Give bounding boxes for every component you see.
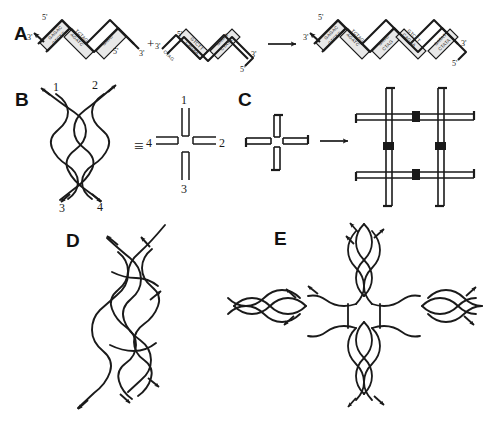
label-p-3prime-left: 3' — [303, 33, 309, 42]
junction-arm-label-3: 3 — [59, 201, 65, 215]
equivalence-symbol: ≡ — [134, 137, 144, 156]
label-r1-5prime-right: 5' — [113, 47, 119, 56]
panel-d-letter: D — [66, 230, 80, 251]
panel-a-plus-operator: + — [147, 36, 154, 51]
schematic-label-4: 4 — [146, 136, 152, 150]
panel-a-letter: A — [14, 23, 28, 44]
panel-e-letter: E — [274, 228, 287, 249]
label-p-5prime-right: 5' — [452, 59, 458, 68]
label-p-3prime-right: 3' — [461, 39, 467, 48]
label-p-5prime-left: 5' — [318, 13, 324, 22]
label-r2-5prime-left: 5' — [177, 30, 183, 39]
schematic-label-2: 2 — [219, 136, 225, 150]
junction-block-left — [383, 142, 394, 150]
junction-arm-label-1: 1 — [53, 80, 59, 94]
schematic-label-1: 1 — [181, 93, 187, 107]
label-r2-5prime-right: 5' — [240, 65, 246, 74]
dna-nanostructure-figure: A GAGAC CTCTG AGATC TCTAG GATC 3' 5' 5' … — [0, 0, 485, 427]
junction-arm-label-4: 4 — [97, 200, 103, 214]
label-r1-3prime-left: 3' — [27, 33, 33, 42]
junction-block-bottom — [412, 169, 420, 180]
schematic-label-3: 3 — [181, 182, 187, 196]
label-r2-3prime-left: 3' — [155, 42, 161, 51]
junction-block-top — [412, 111, 420, 122]
panel-b-letter: B — [15, 89, 29, 110]
panel-c-letter: C — [238, 89, 252, 110]
label-r2-3prime-right: 3' — [251, 50, 257, 59]
label-r1-3prime-right: 3' — [139, 49, 145, 58]
junction-block-right — [435, 142, 446, 150]
junction-arm-label-2: 2 — [92, 78, 98, 92]
label-r1-5prime-left: 5' — [42, 13, 48, 22]
